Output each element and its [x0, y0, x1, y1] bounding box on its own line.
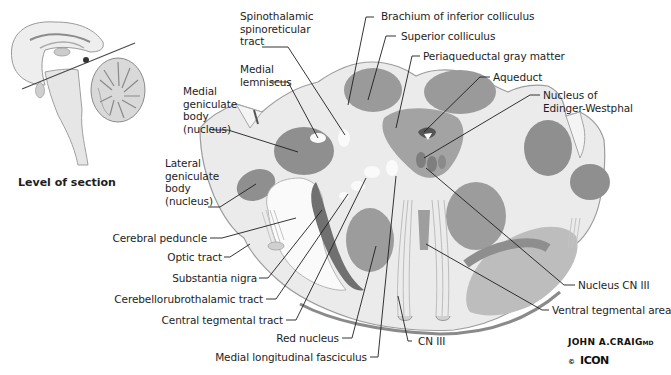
red-nucleus-left	[346, 208, 394, 272]
label-red-nucleus: Red nucleus	[276, 332, 339, 345]
icon-publisher-logo: ICON	[580, 354, 609, 367]
medial-geniculate-right	[524, 120, 572, 176]
label-cerebellorubrothalamic-tract: Cerebellorubrothalamic tract	[114, 293, 263, 306]
label-lateral-geniculate-body: Lateral geniculate body (nucleus)	[165, 157, 219, 207]
inset-sagittal-brain	[11, 22, 145, 165]
label-brachium-inferior-colliculus: Brachium of inferior colliculus	[381, 10, 534, 23]
label-optic-tract: Optic tract	[167, 251, 222, 264]
label-medial-lemniscus: Medial lemniscus	[240, 63, 292, 88]
label-ventral-tegmental-area: Ventral tegmental area	[552, 304, 671, 317]
label-medial-longitudinal-fasciculus: Medial longitudinal fasciculus	[215, 351, 367, 364]
medial-geniculate-left	[274, 127, 334, 175]
copyright-symbol: ©	[568, 358, 575, 366]
cerebellum-icon	[91, 58, 145, 122]
lateral-geniculate-right	[570, 164, 610, 200]
artist-suffix: MD	[643, 339, 654, 346]
label-cerebral-peduncle: Cerebral peduncle	[112, 232, 207, 245]
label-aqueduct: Aqueduct	[493, 71, 542, 84]
label-central-tegmental-tract: Central tegmental tract	[162, 314, 283, 327]
figure: Level of section Spinothalamic spinoreti…	[0, 0, 671, 375]
label-substantia-nigra: Substantia nigra	[172, 272, 257, 285]
label-cn3: CN III	[418, 335, 445, 348]
inset-caption: Level of section	[18, 176, 116, 189]
artist-name: JOHN A.CRAIG	[568, 337, 643, 347]
label-medial-geniculate-body: Medial geniculate body (nucleus)	[183, 85, 237, 135]
superior-colliculus-left	[344, 68, 402, 112]
label-edinger-westphal: Nucleus of Edinger-Westphal	[543, 89, 633, 114]
label-nucleus-cn3: Nucleus CN III	[578, 279, 650, 292]
artist-signature: JOHN A.CRAIGMD © ICON	[568, 330, 654, 368]
label-periaqueductal-gray: Periaqueductal gray matter	[423, 50, 565, 63]
label-superior-colliculus: Superior colliculus	[401, 30, 495, 43]
label-spinothalamic-tract: Spinothalamic spinoreticular tract	[240, 10, 314, 48]
